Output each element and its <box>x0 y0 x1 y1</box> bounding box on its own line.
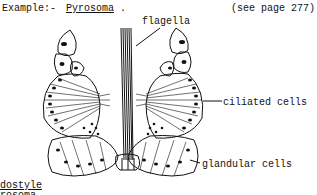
flagella-pointer <box>136 28 160 46</box>
left-lobe <box>43 30 118 176</box>
right-nuclei <box>142 40 198 168</box>
flagella-bundle <box>121 28 133 160</box>
glandular-pointer <box>190 160 200 163</box>
left-cilia <box>44 78 110 176</box>
right-lobe <box>128 28 203 176</box>
endostyle-diagram <box>0 0 317 195</box>
right-cilia <box>136 78 202 176</box>
